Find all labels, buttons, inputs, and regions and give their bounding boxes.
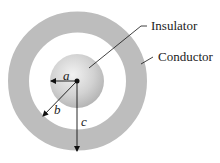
conductor-label: Conductor <box>158 49 213 65</box>
radius-c-label: c <box>81 114 87 130</box>
insulator-label: Insulator <box>151 18 197 34</box>
radius-a-label: a <box>63 68 70 84</box>
radius-b-label: b <box>54 102 61 118</box>
